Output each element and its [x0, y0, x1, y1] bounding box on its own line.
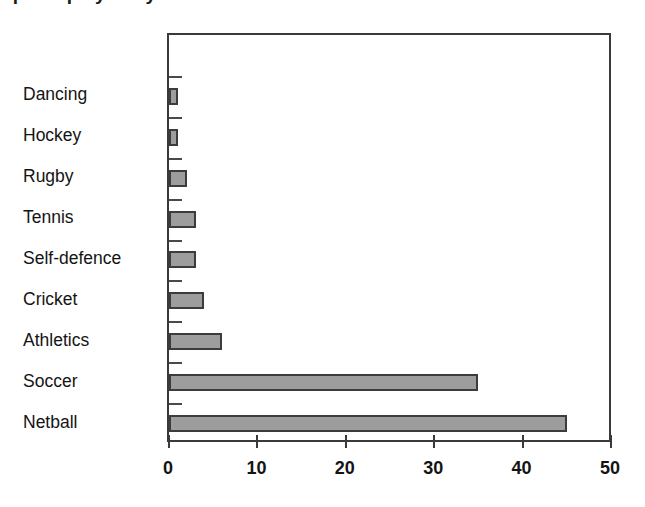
- y-axis-tick: [169, 321, 182, 323]
- category-label-dancing: Dancing: [0, 85, 155, 103]
- y-axis-tick: [169, 117, 182, 119]
- bar-netball: [169, 415, 567, 432]
- category-axis: DancingHockeyRugbyTennisSelf-defenceCric…: [0, 33, 163, 442]
- y-axis-tick: [169, 76, 182, 78]
- x-axis-label-0: 0: [163, 458, 173, 479]
- bar-rugby: [169, 170, 187, 187]
- category-label-netball: Netball: [0, 413, 155, 431]
- bar-athletics: [169, 333, 222, 350]
- plot-area: [167, 33, 611, 442]
- bar-self-defence: [169, 251, 196, 268]
- y-axis-tick: [169, 158, 182, 160]
- chart-title-text: Sports played by students: [0, 0, 420, 6]
- y-axis-tick: [169, 403, 182, 405]
- x-axis-tick-0: [168, 435, 170, 448]
- bar-hockey: [169, 129, 178, 146]
- x-axis-tick-20: [345, 435, 347, 448]
- category-label-tennis: Tennis: [0, 208, 155, 226]
- bar-tennis: [169, 211, 196, 228]
- bar-dancing: [169, 88, 178, 105]
- category-label-cricket: Cricket: [0, 290, 155, 308]
- category-label-self-defence: Self-defence: [0, 249, 155, 267]
- y-axis-tick: [169, 199, 182, 201]
- category-label-hockey: Hockey: [0, 126, 155, 144]
- bar-chart-figure: Sports played by students DancingHockeyR…: [0, 0, 645, 507]
- x-axis-ticks: [167, 441, 611, 455]
- x-axis-tick-30: [433, 435, 435, 448]
- chart-title-cropped: Sports played by students: [0, 0, 420, 6]
- y-axis-tick: [169, 280, 182, 282]
- bar-soccer: [169, 374, 478, 391]
- x-axis-tick-40: [522, 435, 524, 448]
- x-axis-tick-labels: 01020304050: [167, 458, 611, 488]
- category-label-rugby: Rugby: [0, 167, 155, 185]
- x-axis-label-30: 30: [423, 458, 443, 479]
- x-axis-tick-10: [256, 435, 258, 448]
- y-axis-tick: [169, 240, 182, 242]
- x-axis-label-50: 50: [600, 458, 620, 479]
- x-axis-tick-50: [610, 435, 612, 448]
- bar-cricket: [169, 292, 204, 309]
- x-axis-label-40: 40: [512, 458, 532, 479]
- x-axis-label-20: 20: [335, 458, 355, 479]
- y-axis-tick: [169, 362, 182, 364]
- x-axis-label-10: 10: [246, 458, 266, 479]
- category-label-soccer: Soccer: [0, 372, 155, 390]
- category-label-athletics: Athletics: [0, 331, 155, 349]
